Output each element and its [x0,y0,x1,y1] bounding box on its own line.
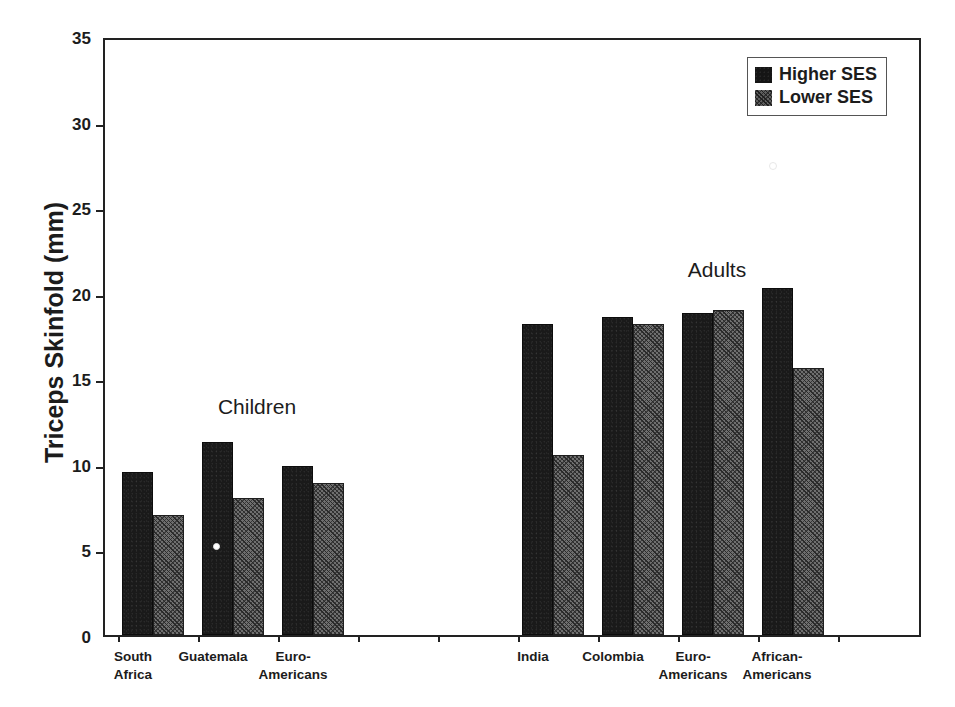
chart-figure: Triceps Skinfold (mm) 35 30 25 20 15 10 [0,0,955,707]
bar-lower-ses-african-americans [793,368,824,635]
bar-lower-ses-south-africa [153,515,184,635]
y-axis-title: Triceps Skinfold (mm) [40,173,69,493]
y-tick-label: 0 [82,628,91,648]
bar-higher-ses-euro-americans-children [282,466,313,635]
x-tick-mark [518,635,520,642]
x-category-label-line1: Euro- [247,648,339,666]
y-tick-mark [96,210,105,212]
legend-item-higher-ses: Higher SES [755,63,877,86]
legend-swatch-lower-ses-icon [755,90,772,106]
bar-higher-ses-guatemala [202,442,233,635]
bar-lower-ses-guatemala [233,498,264,635]
x-category-label-colombia: Colombia [567,648,659,666]
bar-lower-ses-colombia [633,324,664,636]
y-tick-label: 5 [82,542,91,562]
bar-lower-ses-india [553,455,584,635]
x-tick-mark [838,635,840,642]
x-tick-mark [358,635,360,642]
x-category-label-african-americans: African- Americans [727,648,827,684]
y-tick-label: 20 [72,286,91,306]
x-category-label-line1: African- [727,648,827,666]
x-category-label-line2: Americans [647,666,739,684]
group-annotation-children: Children [218,395,296,419]
x-category-label-line1: Guatemala [167,648,259,666]
x-category-label-south-africa: South Africa [87,648,179,684]
x-category-label-line1: Euro- [647,648,739,666]
x-category-label-line2: Americans [247,666,339,684]
bar-higher-ses-colombia [602,317,633,635]
bar-higher-ses-african-americans [762,288,793,635]
x-tick-mark [278,635,280,642]
x-category-label-india: India [487,648,579,666]
x-category-label-line1: South [87,648,179,666]
x-tick-mark [118,635,120,642]
y-tick-label: 35 [72,29,91,49]
x-category-label-line1: Colombia [567,648,659,666]
x-tick-mark [438,635,440,642]
x-category-label-line1: India [487,648,579,666]
y-tick-label: 25 [72,200,91,220]
y-tick-label: 30 [72,115,91,135]
y-tick-mark [96,381,105,383]
legend-item-lower-ses: Lower SES [755,86,877,109]
x-category-label-euro-americans-adults: Euro- Americans [647,648,739,684]
y-tick-label: 15 [72,371,91,391]
scan-artifact [769,162,777,170]
x-category-label-euro-americans-children: Euro- Americans [247,648,339,684]
group-annotation-adults: Adults [688,258,746,282]
x-tick-mark [678,635,680,642]
y-tick-mark [96,467,105,469]
x-category-label-line2: Africa [87,666,179,684]
bar-higher-ses-euro-americans-adults [682,313,713,635]
plot-area: 35 30 25 20 15 10 5 0 [103,38,921,637]
bar-higher-ses-india [522,324,553,636]
bar-lower-ses-euro-americans-children [313,483,344,635]
y-tick-mark [96,296,105,298]
y-tick-label: 10 [72,457,91,477]
x-category-label-line2: Americans [727,666,827,684]
legend-swatch-higher-ses-icon [755,67,772,83]
bar-higher-ses-south-africa [122,472,153,635]
y-tick-mark [96,552,105,554]
x-tick-mark [598,635,600,642]
x-tick-mark [198,635,200,642]
x-tick-mark [758,635,760,642]
legend: Higher SES Lower SES [747,57,887,116]
x-category-label-guatemala: Guatemala [167,648,259,666]
legend-label: Higher SES [779,64,877,85]
legend-label: Lower SES [779,87,873,108]
y-tick-mark [96,125,105,127]
bar-lower-ses-euro-americans-adults [713,310,744,635]
